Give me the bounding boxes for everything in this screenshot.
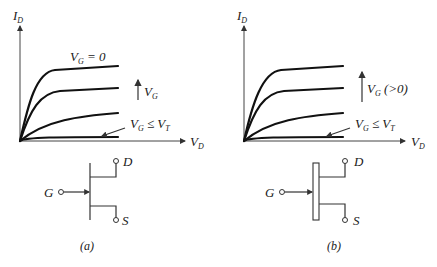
jfet-characteristics-figure: ID VD VG = 0 VG VG ≤ VT G D S (a) [0,0,437,267]
vg-arrow-label-b: VG (>0) [367,81,408,98]
channel-box-b [313,163,319,220]
drain-terminal-b [343,159,348,164]
panel-a: ID VD VG = 0 VG VG ≤ VT G D S (a) [12,8,204,253]
top-curve-label-a: VG = 0 [70,49,106,66]
x-axis-label-a: VD [190,134,204,151]
iv-plot-a: ID VD VG = 0 VG VG ≤ VT [12,8,204,151]
drain-lead-b [319,163,345,177]
gate-label-b: G [265,185,275,200]
curve-threshold-a [20,137,118,141]
jfet-symbol-b: G D S [265,154,364,228]
source-lead-b [319,204,345,218]
source-lead-a [90,206,116,218]
threshold-label-b: VG ≤ VT [355,116,395,133]
source-label-a: S [122,213,129,228]
panel-b: ID VD VG (>0) VG ≤ VT G D S (b) [236,8,425,253]
y-axis-label-a: ID [12,8,23,25]
curve-vg-0-a [20,66,118,141]
source-terminal-a [114,218,119,223]
source-label-b: S [353,213,360,228]
drain-lead-a [90,163,116,177]
curve-1-b [244,66,343,141]
source-terminal-b [343,218,348,223]
curve-threshold-b [244,137,343,141]
drain-label-b: D [353,154,364,169]
gate-terminal-b [280,190,285,195]
drain-label-a: D [122,154,133,169]
caption-a: (a) [80,239,94,253]
iv-plot-b: ID VD VG (>0) VG ≤ VT [236,8,425,151]
gate-terminal-a [59,190,64,195]
caption-b: (b) [327,239,341,253]
threshold-label-a: VG ≤ VT [130,116,170,133]
threshold-pointer-a [102,128,125,136]
y-axis-label-b: ID [236,8,247,25]
drain-terminal-a [114,159,119,164]
threshold-pointer-b [327,128,350,136]
x-axis-label-b: VD [411,134,425,151]
gate-label-a: G [44,185,54,200]
vg-arrow-label-a: VG [144,84,158,101]
jfet-symbol-a: G D S [44,154,133,228]
